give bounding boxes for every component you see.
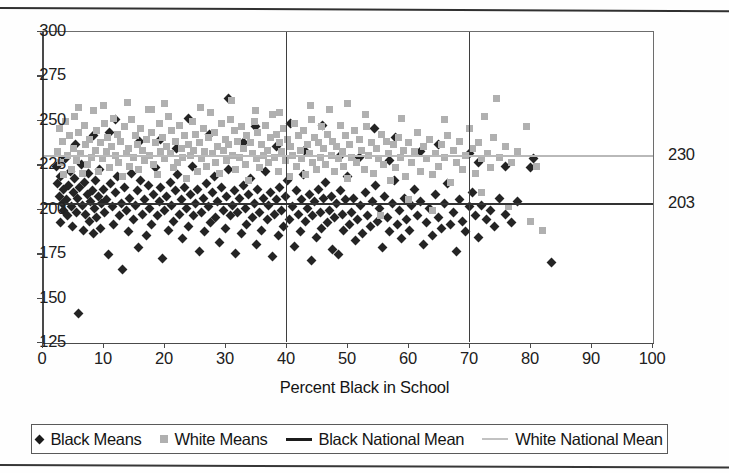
data-point-white-mean — [104, 134, 111, 141]
data-point-white-mean — [493, 95, 500, 102]
data-point-white-mean — [70, 145, 77, 152]
data-point-white-mean — [176, 122, 183, 129]
data-point-white-mean — [414, 129, 421, 136]
legend-item-2: Black National Mean — [277, 430, 474, 449]
x-tick-label-10: 10 — [83, 349, 123, 368]
y-tick-label-250: 250 — [39, 110, 66, 129]
data-point-white-mean — [447, 179, 454, 186]
y-tick-mark-300 — [37, 31, 42, 32]
data-point-white-mean — [71, 113, 78, 120]
legend-item-label: White Means — [175, 430, 268, 449]
data-point-white-mean — [340, 163, 347, 170]
data-point-white-mean — [318, 123, 325, 130]
data-point-white-mean — [216, 170, 223, 177]
white-national-mean-line — [42, 155, 654, 156]
data-point-white-mean — [106, 164, 113, 171]
legend-item-label: Black Means — [50, 430, 141, 449]
data-point-white-mean — [121, 123, 128, 130]
data-point-white-mean — [75, 104, 82, 111]
data-point-white-mean — [128, 116, 135, 123]
y-tick-label-300: 300 — [39, 21, 66, 40]
black-national-mean-line — [42, 203, 654, 205]
data-point-white-mean — [346, 141, 353, 148]
data-point-white-mean — [156, 120, 163, 127]
data-point-white-mean — [411, 148, 418, 155]
data-point-white-mean — [161, 100, 168, 107]
data-point-white-mean — [405, 139, 412, 146]
data-point-white-mean — [203, 163, 210, 170]
data-point-white-mean — [192, 131, 199, 138]
data-point-white-mean — [152, 139, 159, 146]
data-point-white-mean — [75, 129, 82, 136]
legend-item-1: White Means — [151, 430, 277, 449]
data-point-white-mean — [287, 143, 294, 150]
data-point-white-mean — [264, 147, 271, 154]
data-point-white-mean — [101, 120, 108, 127]
x-tick-mark-0 — [42, 343, 43, 348]
data-point-white-mean — [276, 139, 283, 146]
data-point-white-mean — [201, 148, 208, 155]
x-tick-mark-40 — [286, 343, 287, 348]
x-tick-label-40: 40 — [266, 349, 306, 368]
data-point-white-mean — [163, 143, 170, 150]
x-tick-mark-20 — [164, 343, 165, 348]
x-tick-mark-100 — [652, 343, 653, 348]
data-point-white-mean — [110, 115, 117, 122]
data-point-white-mean — [344, 175, 351, 182]
plot-border-right — [653, 31, 654, 344]
y-tick-mark-250 — [37, 120, 42, 121]
data-point-white-mean — [420, 143, 427, 150]
y-tick-label-175: 175 — [39, 243, 66, 262]
data-point-white-mean — [132, 132, 139, 139]
data-point-white-mean — [291, 120, 298, 127]
x-tick-label-90: 90 — [571, 349, 611, 368]
data-point-white-mean — [84, 161, 91, 168]
data-point-white-mean — [139, 147, 146, 154]
vertical-gridline-40 — [286, 31, 287, 342]
data-point-white-mean — [309, 159, 316, 166]
data-point-white-mean — [231, 127, 238, 134]
data-point-white-mean — [490, 134, 497, 141]
data-point-white-mean — [90, 107, 97, 114]
data-point-white-mean — [450, 147, 457, 154]
y-tick-mark-275 — [37, 75, 42, 76]
data-point-white-mean — [275, 168, 282, 175]
white-square-marker-icon — [160, 435, 168, 443]
data-point-white-mean — [475, 139, 482, 146]
data-point-white-mean — [238, 123, 245, 130]
data-point-white-mean — [125, 145, 132, 152]
data-point-white-mean — [441, 116, 448, 123]
y-tick-label-275: 275 — [39, 65, 66, 84]
data-point-white-mean — [211, 129, 218, 136]
x-tick-label-100: 100 — [632, 349, 672, 368]
data-point-white-mean — [183, 175, 190, 182]
data-point-white-mean — [429, 207, 436, 214]
page-rule-bottom — [0, 464, 729, 469]
data-point-white-mean — [232, 166, 239, 173]
data-point-white-mean — [117, 138, 124, 145]
y-tick-mark-225 — [37, 164, 42, 165]
data-point-white-mean — [79, 170, 86, 177]
data-point-white-mean — [308, 116, 315, 123]
light-line-marker-icon — [482, 438, 508, 440]
vertical-gridline-70 — [469, 31, 470, 342]
data-point-white-mean — [119, 173, 126, 180]
data-point-white-mean — [478, 189, 485, 196]
data-point-white-mean — [154, 171, 161, 178]
data-point-white-mean — [429, 171, 436, 178]
data-point-white-mean — [400, 147, 407, 154]
data-point-white-mean — [390, 141, 397, 148]
dark-line-marker-icon — [286, 438, 312, 441]
data-point-white-mean — [320, 145, 327, 152]
data-point-white-mean — [304, 141, 311, 148]
data-point-white-mean — [190, 147, 197, 154]
data-point-white-mean — [234, 138, 241, 145]
x-tick-label-20: 20 — [144, 349, 184, 368]
data-point-white-mean — [297, 147, 304, 154]
data-point-white-mean — [331, 168, 338, 175]
data-point-white-mean — [212, 159, 219, 166]
data-point-white-mean — [276, 109, 283, 116]
data-point-white-mean — [361, 166, 368, 173]
data-point-white-mean — [269, 111, 276, 118]
data-point-white-mean — [189, 118, 196, 125]
